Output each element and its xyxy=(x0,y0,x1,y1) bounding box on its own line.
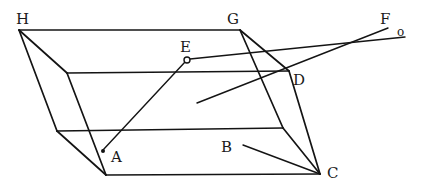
ray-d-f xyxy=(197,28,388,103)
point-a-marker xyxy=(101,149,105,153)
edge-lower-left-bottom xyxy=(57,131,106,175)
ray-e-o xyxy=(190,37,405,59)
edge-g-lower-right xyxy=(240,30,283,128)
label-b: B xyxy=(221,138,232,156)
label-e: E xyxy=(180,38,191,56)
label-a: A xyxy=(110,148,122,166)
label-g: G xyxy=(227,10,239,28)
edge-bottom xyxy=(106,174,320,175)
edge-h-lower-left xyxy=(19,30,57,131)
ray-a-e xyxy=(103,62,185,150)
label-h: H xyxy=(16,10,29,28)
edge-lower xyxy=(57,128,283,131)
prism-diagram: H G E F o D A B C xyxy=(0,0,425,188)
edge-g-d xyxy=(240,30,289,71)
label-o: o xyxy=(397,25,404,39)
label-c: C xyxy=(327,164,338,182)
point-e-marker xyxy=(184,57,190,63)
label-d: D xyxy=(293,71,305,89)
edge-middle xyxy=(67,71,289,73)
edge-middle-left-bottom xyxy=(67,73,106,175)
label-f: F xyxy=(380,10,390,28)
